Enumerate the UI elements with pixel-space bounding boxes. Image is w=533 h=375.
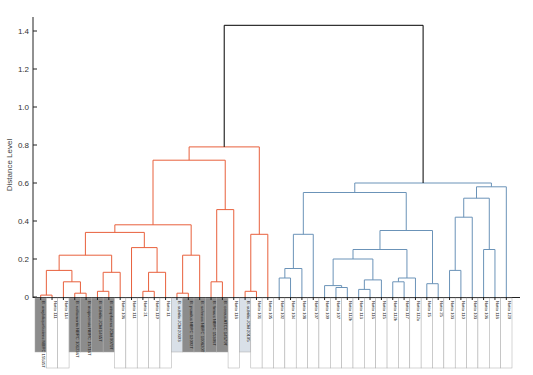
leaf-label: Natto 113 [359, 301, 364, 320]
leaf-label: Natto 112a [416, 301, 421, 322]
leaf-label: Natto 115 [382, 301, 387, 320]
leaf-label: B. subtilis JCM 1465T [98, 301, 103, 342]
leaf-label: Natto 116 [371, 301, 376, 320]
leaf-label: Natto 111 [53, 301, 58, 319]
y-tick-label: 1.4 [18, 27, 30, 36]
leaf-label: Natto 120 [507, 301, 512, 320]
leaf-label: Natto 103 [473, 301, 478, 320]
leaf-label: Natto 107 [336, 301, 341, 320]
leaf-label: Natto 11 [166, 301, 171, 317]
y-tick-label: 0 [25, 293, 30, 302]
y-tick-label: 0.8 [18, 141, 30, 150]
leaf-label: Natto 114 [64, 301, 69, 320]
leaf-label: Natto 101 [257, 301, 262, 320]
y-tick-label: 0.4 [18, 217, 30, 226]
y-tick-label: 0.6 [18, 179, 30, 188]
leaf-label: Natto 112b [393, 301, 398, 322]
leaf-label: B. subtilis JCM 20105 [246, 301, 251, 342]
leaf-label: Natto 119 [155, 301, 160, 320]
leaf-label: Natto 117 [405, 301, 410, 320]
y-axis-label: Distance Level [5, 139, 14, 192]
y-axis: 00.20.40.60.81.01.21.4 Distance Level [5, 17, 37, 302]
leaf-label: Natto 105 [268, 301, 273, 320]
leaf-label: Natto 102 [280, 301, 285, 320]
leaf-label: B. subtilis JCM 20393 [177, 301, 182, 342]
leaf-label: B. cereus ATCC 14579T [223, 301, 228, 347]
leaf-label: B. atrophaeus JCM 9070T [109, 301, 114, 350]
leaf-label: Natto 21 [143, 301, 148, 318]
leaf-label: Natto 15 [427, 301, 432, 318]
dendrogram-tree [41, 25, 507, 297]
leaf-label: Natto 108 [302, 301, 307, 320]
leaf-label: B. pumilus NBRC 12092T [189, 301, 194, 349]
y-tick-label: 1.2 [18, 65, 30, 74]
leaf-label: Natto 109 [325, 301, 330, 320]
leaf-label: Natto 106 [121, 301, 126, 320]
leaf-label: Natto 103 [450, 301, 455, 320]
leaf-label: B. vallismortis NBRC 101236T [75, 301, 80, 358]
y-tick-label: 0.2 [18, 255, 30, 264]
leaf-label: Natto 106 [484, 301, 489, 320]
leaf-label: Natto 110 [461, 301, 466, 320]
leaf-label: Natto 112b [348, 301, 353, 322]
leaf-label: B. amyloliquefaciens NBRC 15535T [41, 301, 46, 368]
leaf-label: Natto 111 [132, 301, 137, 319]
y-tick-label: 1.0 [18, 103, 30, 112]
leaf-label: B. safensis NBRC 100820T [200, 301, 205, 353]
leaf-label: Natto 118 [234, 301, 239, 320]
leaf-label: Natto 104 [291, 301, 296, 320]
leaf-label: Natto 107 [314, 301, 319, 320]
dendrogram-chart: 00.20.40.60.81.01.21.4 Distance Level B.… [0, 0, 533, 375]
leaf-label: Natto 118 [495, 301, 500, 320]
leaf-label: B. firmus NBRC 15306T [212, 301, 217, 346]
leaf-label-cells: B. amyloliquefaciens NBRC 15535TNatto 11… [35, 297, 512, 368]
leaf-label: B. mojavensis NBRC 15718T [87, 301, 92, 356]
leaf-label: Natto 25 [439, 301, 444, 318]
